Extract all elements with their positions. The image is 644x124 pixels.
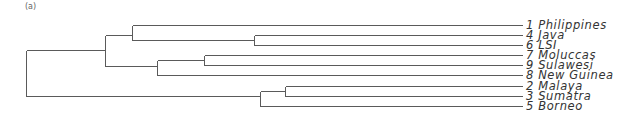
dendrogram-branches <box>27 26 523 107</box>
leaf-label-borneo: 5 Borneo <box>526 99 583 113</box>
leaf-labels: 1 Philippines 4 Java 6 LSI 7 Moluccas 9 … <box>526 18 614 113</box>
dendrogram: 1 Philippines 4 Java 6 LSI 7 Moluccas 9 … <box>0 0 644 124</box>
